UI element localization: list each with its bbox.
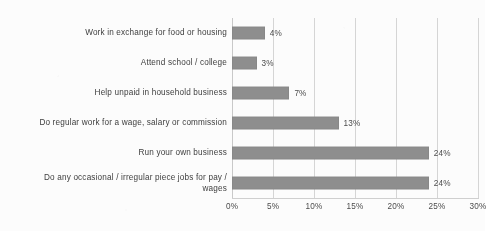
x-tick-label: 10% [306, 202, 323, 211]
plot-area: Work in exchange for food or housing4%At… [232, 18, 478, 198]
x-axis-baseline [232, 198, 479, 199]
bar-value-label: 24% [434, 149, 451, 158]
bar [232, 117, 339, 130]
x-tick-label: 25% [429, 202, 446, 211]
x-tick-label: 15% [347, 202, 364, 211]
x-tick-label: 20% [388, 202, 405, 211]
bar-row: Run your own business24% [232, 138, 478, 168]
bar-category-label: Run your own business [5, 148, 227, 159]
bar-category-label: Work in exchange for food or housing [5, 28, 227, 39]
bar [232, 177, 429, 190]
bar-row: Attend school / college3% [232, 48, 478, 78]
bar-value-label: 4% [270, 29, 282, 38]
bar [232, 147, 429, 160]
bar-value-label: 13% [344, 119, 361, 128]
bar [232, 27, 265, 40]
bar-row: Do any occasional / irregular piece jobs… [232, 168, 478, 198]
bar-value-label: 24% [434, 179, 451, 188]
bar-row: Help unpaid in household business7% [232, 78, 478, 108]
bar-category-label: Do any occasional / irregular piece jobs… [5, 173, 227, 194]
bar-category-label: Do regular work for a wage, salary or co… [5, 118, 227, 129]
x-tick-label: 30% [470, 202, 486, 211]
x-tick-label: 5% [267, 202, 279, 211]
bar-value-label: 3% [262, 59, 274, 68]
bar-category-label: Help unpaid in household business [5, 88, 227, 99]
bar-row: Do regular work for a wage, salary or co… [232, 108, 478, 138]
bar-category-label: Attend school / college [5, 58, 227, 69]
x-tick-label: 0% [226, 202, 238, 211]
bar [232, 87, 289, 100]
gridline-30pct [478, 18, 479, 198]
caption-remnant [28, 226, 465, 231]
bar-row: Work in exchange for food or housing4% [232, 18, 478, 48]
bar [232, 57, 257, 70]
bar-value-label: 7% [294, 89, 306, 98]
